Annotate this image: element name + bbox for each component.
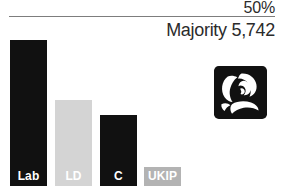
bars-area: Lab LD C UKIP	[0, 0, 282, 192]
election-bar-chart: 50% Majority 5,742 Lab	[0, 0, 282, 192]
bar-c: C	[100, 115, 137, 186]
bar-label-c: C	[114, 170, 123, 186]
bar-label-lab: Lab	[18, 170, 40, 186]
bar-ld: LD	[55, 100, 92, 186]
bar-label-ld: LD	[65, 170, 81, 186]
bar-ukip: UKIP	[144, 167, 181, 186]
bar-label-ukip: UKIP	[148, 170, 177, 186]
bar-lab: Lab	[10, 40, 47, 186]
